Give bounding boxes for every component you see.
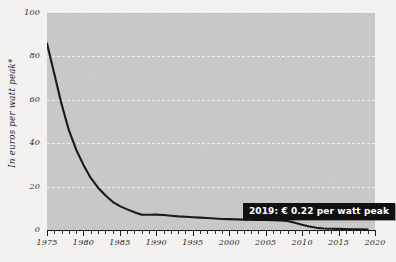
y-axis-label: In euros per watt peak*: [7, 49, 17, 177]
x-tick-1994: [185, 230, 186, 234]
x-tick-label-2000: 2000: [209, 238, 249, 247]
x-tick-label-2010: 2010: [282, 238, 322, 247]
x-tick-2006: [273, 230, 274, 234]
x-tick-label-1975: 1975: [27, 238, 67, 247]
chart-figure: 020406080100 In euros per watt peak* 197…: [0, 0, 396, 262]
x-tick-2007: [280, 230, 281, 234]
y-tick-label-100: 100: [6, 8, 40, 17]
x-tick-2009: [295, 230, 296, 234]
x-tick-1978: [69, 230, 70, 234]
x-tick-1992: [171, 230, 172, 234]
x-tick-label-1990: 1990: [136, 238, 176, 247]
x-tick-2005: [266, 230, 267, 236]
x-tick-1990: [156, 230, 157, 236]
x-tick-1993: [178, 230, 179, 234]
y-tick-label-0: 0: [6, 225, 40, 234]
x-tick-2004: [258, 230, 259, 234]
price-callout: 2019: € 0.22 per watt peak: [243, 203, 395, 220]
x-tick-2011: [309, 230, 310, 234]
x-tick-1977: [62, 230, 63, 234]
x-tick-2000: [229, 230, 230, 236]
x-axis-line: [47, 230, 376, 231]
x-tick-1995: [193, 230, 194, 236]
x-tick-2019: [368, 230, 369, 234]
y-tick-label-20: 20: [6, 182, 40, 191]
x-tick-2016: [346, 230, 347, 234]
x-tick-2020: [375, 230, 376, 236]
series-line: [47, 43, 368, 229]
x-tick-2014: [331, 230, 332, 234]
x-tick-2012: [317, 230, 318, 234]
x-tick-1979: [76, 230, 77, 234]
x-tick-1999: [222, 230, 223, 234]
x-tick-label-2015: 2015: [319, 238, 359, 247]
x-tick-1986: [127, 230, 128, 234]
x-tick-1988: [142, 230, 143, 234]
x-tick-2018: [360, 230, 361, 234]
x-tick-1987: [134, 230, 135, 234]
x-tick-1975: [47, 230, 48, 236]
x-tick-2003: [251, 230, 252, 234]
x-tick-label-1995: 1995: [173, 238, 213, 247]
x-tick-1983: [105, 230, 106, 234]
x-tick-2008: [288, 230, 289, 234]
x-tick-1996: [200, 230, 201, 234]
x-tick-2017: [353, 230, 354, 234]
x-tick-label-2020: 2020: [355, 238, 395, 247]
x-tick-label-2005: 2005: [246, 238, 286, 247]
series-group: [47, 13, 375, 230]
x-tick-label-1985: 1985: [100, 238, 140, 247]
x-tick-2001: [237, 230, 238, 234]
x-tick-1989: [149, 230, 150, 234]
x-tick-1997: [207, 230, 208, 234]
price-callout-label: 2019: € 0.22 per watt peak: [249, 206, 389, 216]
x-tick-2002: [244, 230, 245, 234]
x-tick-1976: [54, 230, 55, 234]
x-tick-2010: [302, 230, 303, 236]
x-tick-1982: [98, 230, 99, 234]
x-tick-2013: [324, 230, 325, 234]
x-tick-2015: [339, 230, 340, 236]
x-tick-1991: [164, 230, 165, 234]
x-tick-label-1980: 1980: [63, 238, 103, 247]
x-tick-1998: [215, 230, 216, 234]
x-tick-1984: [113, 230, 114, 234]
x-tick-1980: [83, 230, 84, 236]
x-tick-1981: [91, 230, 92, 234]
x-tick-1985: [120, 230, 121, 236]
